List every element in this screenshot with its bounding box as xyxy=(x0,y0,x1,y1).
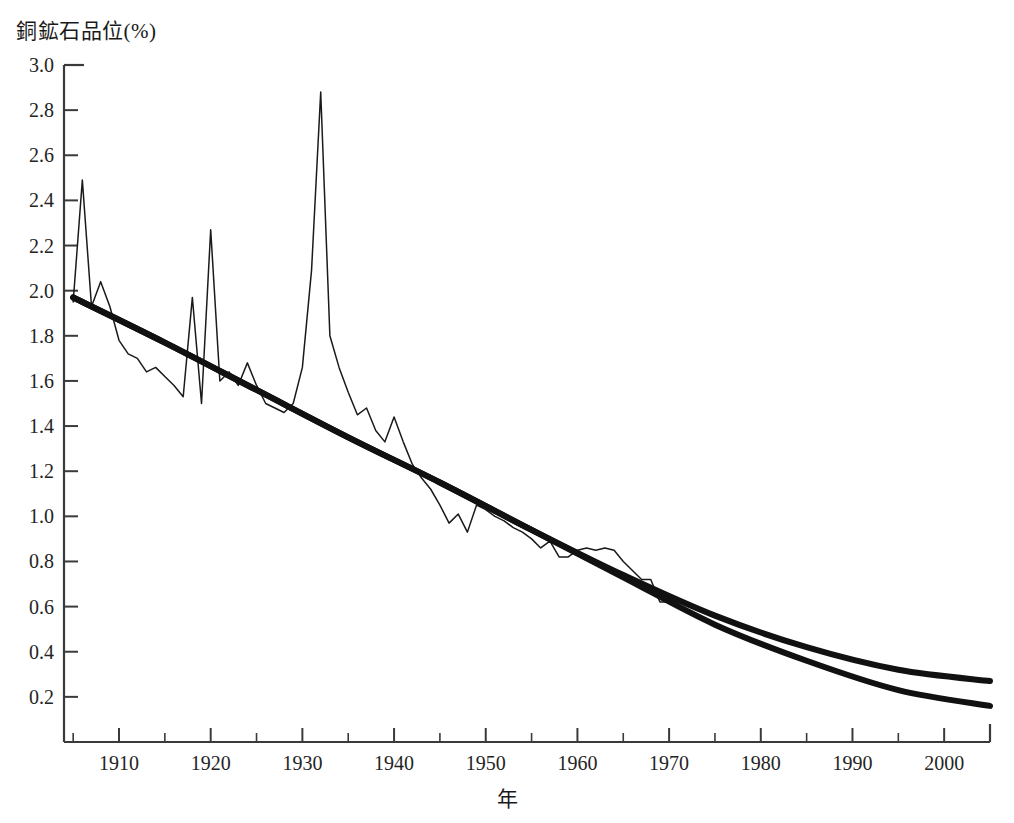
axis-tick-marks xyxy=(64,65,990,742)
trend-curve xyxy=(73,297,990,705)
data-series-layer xyxy=(73,92,990,706)
trend-curve xyxy=(73,297,990,681)
data-line xyxy=(73,92,669,602)
axis-frame xyxy=(64,65,990,742)
plot-area xyxy=(0,0,1014,823)
chart-figure: 銅鉱石品位(%) 年 3.02.82.62.42.22.01.81.61.41.… xyxy=(0,0,1014,823)
